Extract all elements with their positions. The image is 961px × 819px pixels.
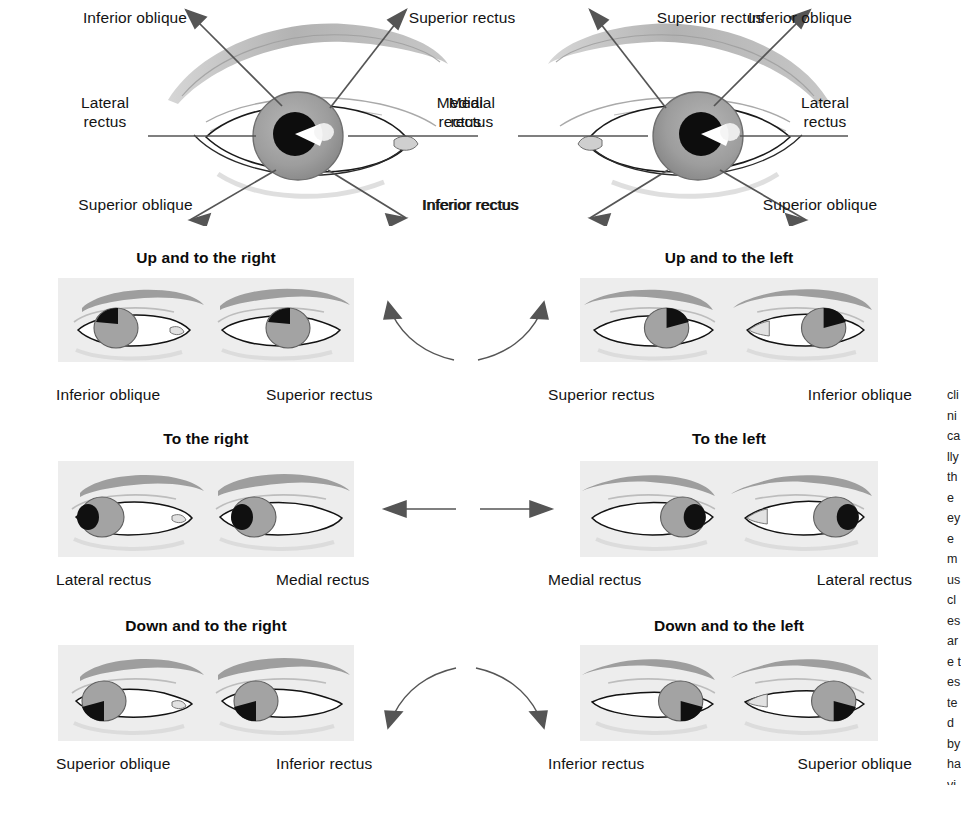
heading-down-and-to-the-left: Down and to the left [580,617,878,635]
panel-up-left-gaze [580,278,878,362]
label-down-right-superior-oblique: Superior oblique [56,754,266,773]
top-right-label-medial-rectus: Medial rectus [400,93,520,131]
label-down-right-inferior-rectus: Inferior rectus [276,754,476,773]
top-left-label-superior-rectus: Superior rectus [372,8,552,27]
label-up-right-inferior-oblique: Inferior oblique [56,385,256,404]
heading-to-the-left: To the left [580,430,878,448]
label-right-medial-rectus: Medial rectus [276,570,476,589]
eye-photo [729,461,878,557]
top-diagram: Inferior oblique Superior rectus Lateral… [0,0,961,232]
eye-photo [58,461,206,557]
top-right-label-inferior-rectus: Inferior rectus [375,195,565,214]
eye-photo [580,461,729,557]
label-down-left-superior-oblique: Superior oblique [690,754,912,773]
panel-down-left-gaze [580,645,878,741]
heading-down-and-to-the-right: Down and to the right [58,617,354,635]
eye-photo [58,645,206,741]
label-right-lateral-rectus: Lateral rectus [56,570,256,589]
panel-left-gaze [580,461,878,557]
eye-photo [580,278,729,362]
top-left-label-lateral-rectus: Lateral rectus [30,93,180,131]
top-right-label-superior-oblique: Superior oblique [700,195,940,214]
figure-root: Inferior oblique Superior rectus Lateral… [0,0,961,819]
eye-photo [729,278,878,362]
label-up-left-inferior-oblique: Inferior oblique [700,385,912,404]
eye-photo [58,278,206,362]
heading-to-the-right: To the right [58,430,354,448]
eye-photo [580,645,729,741]
connector-arc-up [376,288,556,368]
heading-up-and-to-the-left: Up and to the left [580,249,878,267]
panel-up-right-gaze [58,278,354,362]
label-up-right-superior-rectus: Superior rectus [266,385,466,404]
top-left-label-superior-oblique: Superior oblique [38,195,233,214]
top-left-label-inferior-oblique: Inferior oblique [40,8,230,27]
eye-photo [206,461,354,557]
heading-up-and-to-the-right: Up and to the right [58,249,354,267]
eye-photo [206,645,354,741]
edge-body-text-cropped: clinically the eye muscles are tested by… [947,385,961,785]
connector-arc-down [376,660,556,740]
label-left-lateral-rectus: Lateral rectus [712,570,912,589]
eye-photo [206,278,354,362]
panel-down-right-gaze [58,645,354,741]
connector-straight-arrows [378,492,558,526]
eye-photo [729,645,878,741]
top-right-label-inferior-oblique: Inferior oblique [640,8,960,27]
top-right-label-lateral-rectus: Lateral rectus [760,93,890,131]
panel-right-gaze [58,461,354,557]
